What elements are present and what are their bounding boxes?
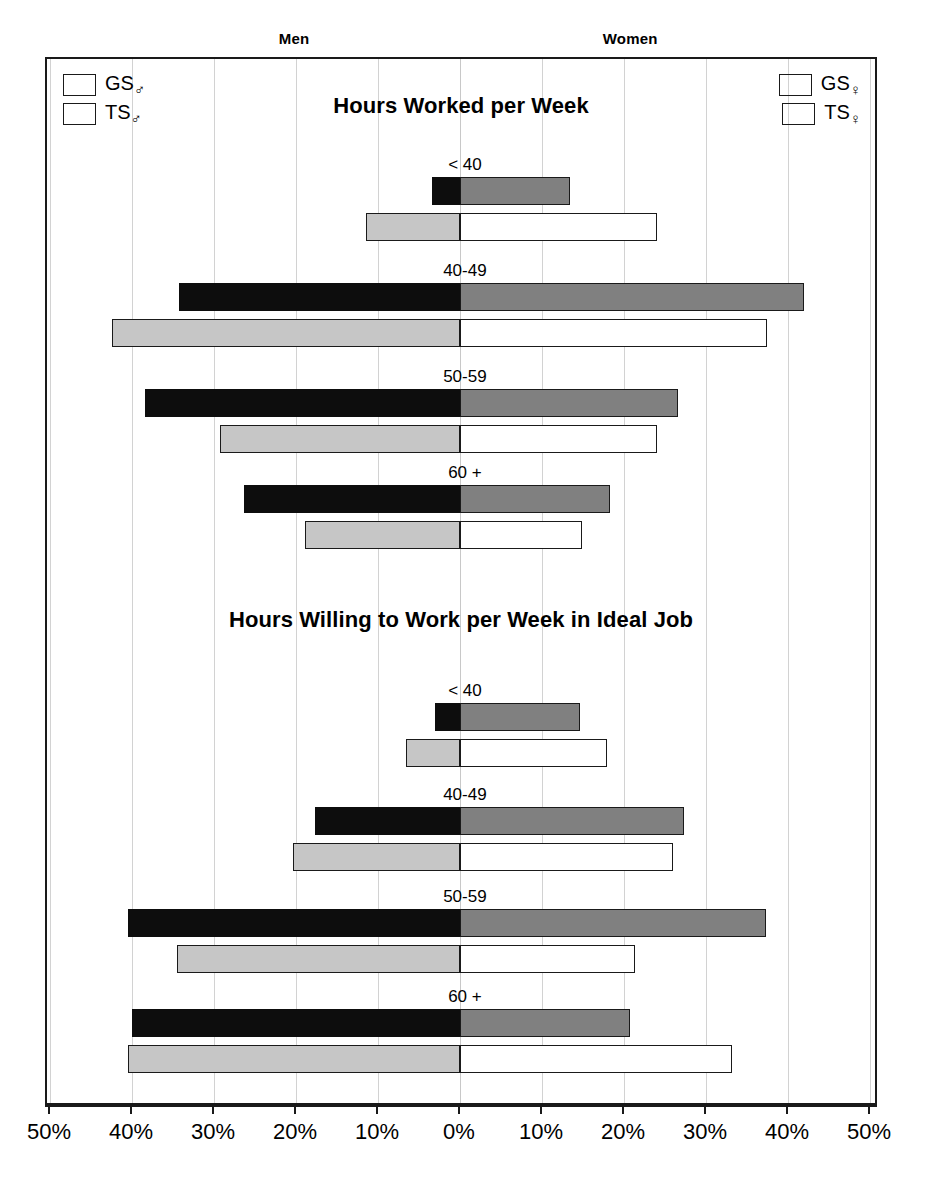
bar-GS-left [145,389,460,417]
bar-GS-left [179,283,460,311]
bar-row [47,319,875,347]
axis-tick [868,1105,870,1114]
axis-tick-label: 20% [273,1119,317,1145]
bar-TS-left [305,521,460,549]
bar-TS-right [460,945,635,973]
women-caption: Women [603,30,658,47]
axis-tick [294,1105,296,1114]
legend-label-gs-men: GS♂ [105,73,145,97]
bar-GS-left [244,485,460,513]
legend-swatch-ts-men [63,103,96,125]
bar-GS-left [128,909,460,937]
bar-group-label: 50-59 [443,887,486,907]
panel-title: Hours Willing to Work per Week in Ideal … [47,607,875,633]
bar-row [47,703,875,731]
bar-GS-left [435,703,460,731]
bar-row [47,1045,875,1073]
axis-tick-label: 0% [443,1119,475,1145]
legend-label-ts-men: TS♂ [105,102,142,126]
axis-tick [376,1105,378,1114]
bar-row [47,1009,875,1037]
legend-women: GS♀ TS♀ [779,73,861,126]
bar-TS-right [460,213,657,241]
bar-row [47,945,875,973]
men-caption: Men [279,30,310,47]
bar-GS-right [460,1009,630,1037]
legend-label-ts-women: TS♀ [824,102,861,126]
bar-TS-right [460,739,607,767]
bar-GS-left [132,1009,460,1037]
gender-captions: Men Women [0,30,930,52]
axis-tick-label: 10% [355,1119,399,1145]
bar-TS-right [460,521,582,549]
bar-group-label: < 40 [448,155,482,175]
male-symbol-icon: ♂ [134,81,145,98]
axis-tick [704,1105,706,1114]
axis-tick [458,1105,460,1114]
male-symbol-icon: ♂ [131,110,142,127]
bar-group-label: 60 + [448,987,482,1007]
bar-row [47,425,875,453]
bar-row [47,739,875,767]
axis-tick [786,1105,788,1114]
axis-tick-label: 40% [765,1119,809,1145]
bar-group-label: 60 + [448,463,482,483]
legend-item-ts-women: TS♀ [779,102,861,126]
bar-GS-right [460,389,678,417]
bar-TS-left [293,843,460,871]
bar-TS-right [460,1045,732,1073]
axis-tick-label: 50% [847,1119,891,1145]
bar-row [47,213,875,241]
axis-tick-label: 10% [519,1119,563,1145]
legend-swatch-gs-women [779,74,812,96]
bar-row [47,389,875,417]
axis-tick-label: 30% [683,1119,727,1145]
axis-tick [622,1105,624,1114]
legend-text-gs-women: GS [821,72,850,94]
axis-tick [48,1105,50,1114]
legend-text-gs-men: GS [105,72,134,94]
bar-row [47,485,875,513]
legend-text-ts-men: TS [105,101,131,123]
bar-group-label: 40-49 [443,785,486,805]
axis-tick [212,1105,214,1114]
bar-TS-left [406,739,460,767]
bar-TS-right [460,843,673,871]
bar-GS-right [460,703,580,731]
legend-men: GS♂ TS♂ [63,73,145,126]
axis-end-cap-right [875,1091,877,1107]
legend-item-gs-men: GS♂ [63,73,145,97]
panel-title: Hours Worked per Week [47,93,875,119]
bar-TS-right [460,425,657,453]
bar-TS-left [366,213,460,241]
female-symbol-icon: ♀ [850,81,861,98]
bar-GS-left [432,177,460,205]
legend-swatch-ts-women [782,103,815,125]
bar-row [47,807,875,835]
bar-GS-left [315,807,460,835]
axis-tick-label: 30% [191,1119,235,1145]
female-symbol-icon: ♀ [850,110,861,127]
x-axis: 50%40%30%20%10%0%10%20%30%40%50% [45,1105,877,1107]
legend-label-gs-women: GS♀ [821,73,861,97]
axis-tick-label: 20% [601,1119,645,1145]
bar-row [47,909,875,937]
legend-item-gs-women: GS♀ [779,73,861,97]
bar-TS-left [177,945,460,973]
bar-row [47,521,875,549]
chart-plot-area: GS♂ TS♂ GS♀ TS♀ Hours Worked per Week< 4… [45,57,877,1105]
bar-row [47,283,875,311]
bar-group-label: 50-59 [443,367,486,387]
axis-tick [130,1105,132,1114]
bar-GS-right [460,177,570,205]
bar-TS-left [112,319,460,347]
axis-tick [540,1105,542,1114]
bar-row [47,177,875,205]
axis-tick-label: 40% [109,1119,153,1145]
bar-group-label: 40-49 [443,261,486,281]
bar-GS-right [460,485,610,513]
legend-text-ts-women: TS [824,101,850,123]
bar-GS-right [460,909,766,937]
legend-swatch-gs-men [63,74,96,96]
axis-end-cap-left [45,1091,47,1107]
